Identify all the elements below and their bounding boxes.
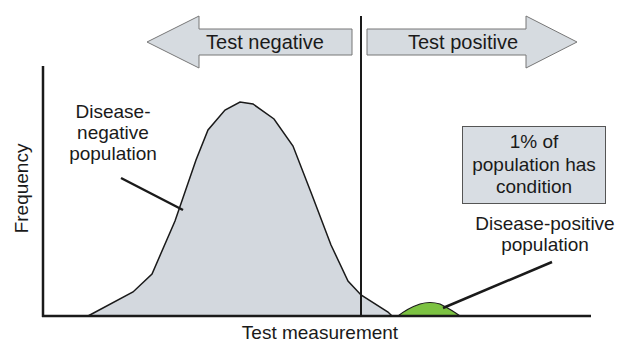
negative-pointer-line xyxy=(121,178,183,210)
label-line: Disease-positive xyxy=(465,214,625,235)
positive-pointer-line xyxy=(443,262,552,308)
label-line: negative xyxy=(58,123,168,144)
disease-negative-label: Disease- negative population xyxy=(58,102,168,165)
prevalence-note-box: 1% of population has condition xyxy=(462,126,606,204)
diagram: Test negative Test positive Disease- neg… xyxy=(0,0,639,358)
label-line: Disease- xyxy=(58,102,168,123)
test-positive-label: Test positive xyxy=(398,31,528,53)
disease-positive-label: Disease-positive population xyxy=(465,214,625,256)
note-line: 1% of xyxy=(463,131,605,154)
note-line: condition xyxy=(463,176,605,199)
y-axis-label: Frequency xyxy=(12,138,33,238)
note-line: population has xyxy=(463,154,605,177)
x-axis-label: Test measurement xyxy=(220,323,420,344)
label-line: population xyxy=(465,235,625,256)
test-negative-label: Test negative xyxy=(200,31,330,53)
label-line: population xyxy=(58,144,168,165)
